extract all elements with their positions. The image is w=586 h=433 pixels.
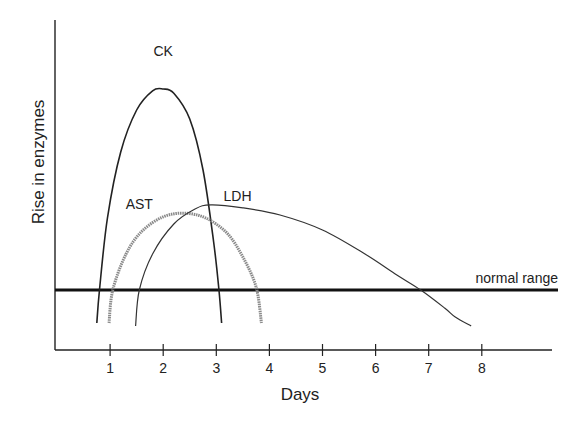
series-group: CKASTLDH — [97, 43, 471, 326]
curve-label-ck: CK — [153, 43, 173, 59]
normal-range-label: normal range — [476, 270, 559, 286]
x-tick-label: 3 — [212, 360, 220, 376]
x-axis-label: Days — [281, 385, 320, 404]
y-axis-label: Rise in enzymes — [29, 100, 48, 225]
x-ticks: 12345678 — [106, 344, 486, 376]
x-tick-label: 1 — [106, 360, 114, 376]
curve-label-ast: AST — [126, 196, 154, 212]
curve-ast — [109, 213, 261, 323]
x-tick-label: 5 — [319, 360, 327, 376]
x-tick-label: 6 — [372, 360, 380, 376]
x-tick-label: 2 — [159, 360, 167, 376]
curve-ldh — [136, 205, 472, 326]
x-tick-label: 7 — [425, 360, 433, 376]
x-tick-label: 4 — [266, 360, 274, 376]
curve-label-ldh: LDH — [224, 188, 252, 204]
x-tick-label: 8 — [478, 360, 486, 376]
enzyme-rise-chart: 12345678 normal range CKASTLDH Days Rise… — [0, 0, 586, 433]
